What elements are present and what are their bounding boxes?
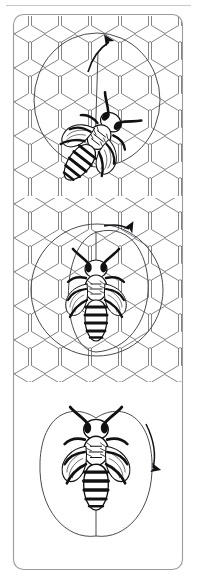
panel-3 <box>40 407 154 536</box>
figure-canvas <box>0 0 197 578</box>
bee-panel-3 <box>62 407 130 510</box>
waggle-dance-figure <box>0 0 197 578</box>
